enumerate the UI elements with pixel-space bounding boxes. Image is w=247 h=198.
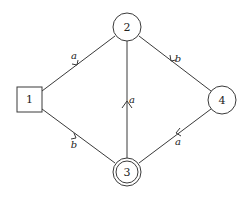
edge-label: b [71, 139, 77, 150]
edge-4-to-3: a [139, 109, 211, 163]
node-label: 3 [124, 166, 131, 179]
node-label: 1 [26, 93, 33, 106]
node-2: 2 [113, 13, 141, 41]
edge-label: a [175, 136, 181, 147]
edge-label: b [175, 53, 181, 64]
edge-3-to-2: a [122, 41, 135, 158]
node-4: 4 [208, 86, 236, 114]
edge-2-to-4: b [139, 36, 211, 91]
arrow-head-icon [72, 60, 78, 65]
node-label: 2 [124, 21, 131, 34]
node-3-accepting: 3 [113, 158, 141, 186]
node-label: 4 [219, 94, 226, 107]
automaton-diagram: a b b a a 1 2 3 4 [0, 0, 247, 198]
node-1-initial: 1 [17, 87, 42, 112]
edge-1-to-2: a [42, 36, 115, 91]
edge-label: a [71, 50, 77, 61]
edge-label: a [129, 94, 135, 105]
edge-1-to-3: b [42, 109, 115, 163]
